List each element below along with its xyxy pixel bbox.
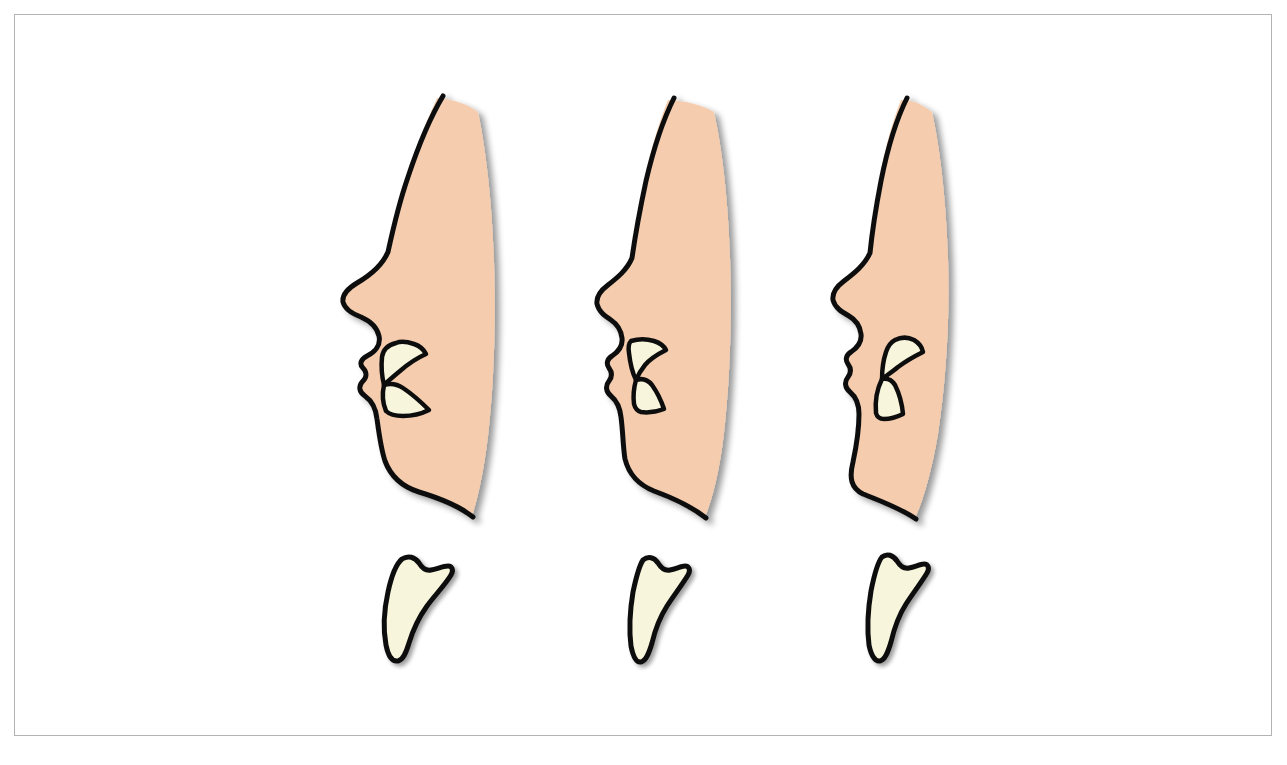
illustration-page [0,0,1287,765]
plate-frame [14,14,1272,736]
caption-strip [70,751,670,765]
